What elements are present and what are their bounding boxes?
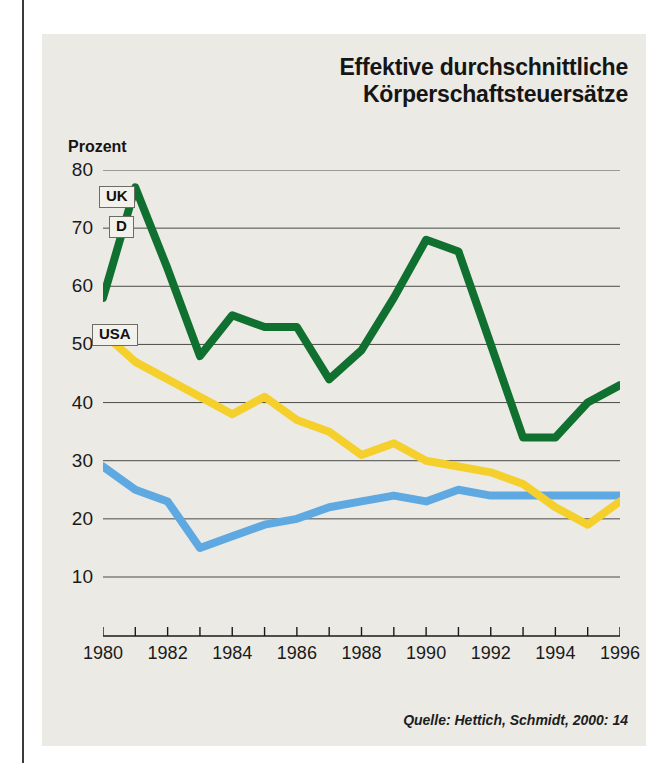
y-tick-label: 50 [53,333,93,355]
x-axis [103,627,620,636]
y-tick-label: 80 [53,159,93,181]
series-key-d: D [109,216,134,238]
x-tick-label: 1990 [406,643,446,664]
plot-area [103,170,620,645]
series-line-usa [103,467,620,548]
x-tick-label: 1982 [148,643,188,664]
chart-title-line-2: Körperschaftsteuersätze [208,81,628,108]
x-tick-label: 1984 [212,643,252,664]
y-tick-label: 30 [53,450,93,472]
chart-title: Effektive durchschnittliche Körperschaft… [208,54,628,108]
series-line-d [103,333,620,525]
y-tick-label: 40 [53,392,93,414]
series-key-usa: USA [92,324,138,346]
x-tick-label: 1988 [341,643,381,664]
x-tick-label: 1980 [83,643,123,664]
y-tick-label: 70 [53,217,93,239]
series-lines [103,187,620,547]
series-line-uk [103,187,620,437]
y-tick-label: 60 [53,275,93,297]
y-tick-label: 20 [53,508,93,530]
x-tick-label: 1994 [535,643,575,664]
x-tick-label: 1996 [600,643,640,664]
source-note: Quelle: Hettich, Schmidt, 2000: 14 [403,712,628,728]
y-axis-unit-label: Prozent [68,138,127,156]
x-tick-label: 1986 [277,643,317,664]
figure-panel: Effektive durchschnittliche Körperschaft… [42,34,646,746]
chart-svg [103,170,620,645]
series-key-uk: UK [99,186,135,208]
chart-title-line-1: Effektive durchschnittliche [339,54,628,80]
x-tick-label: 1992 [471,643,511,664]
page-vertical-rule [22,0,24,763]
y-tick-label: 10 [53,566,93,588]
